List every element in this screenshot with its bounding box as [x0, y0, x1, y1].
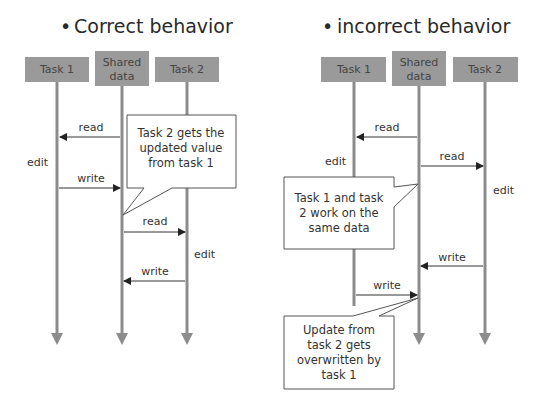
svg-text:2 work on the: 2 work on the: [299, 206, 378, 220]
svg-text:Shared: Shared: [103, 56, 142, 69]
message-read-to-task2: read: [421, 150, 483, 166]
participant-task-1: Task 1: [25, 57, 89, 82]
svg-text:Task 1 and task: Task 1 and task: [294, 191, 384, 205]
svg-text:Task 2 gets the: Task 2 gets the: [137, 126, 225, 140]
note-overwritten: Update from task 2 gets overwritten by t…: [284, 298, 418, 389]
note-updated-value: Task 2 gets the updated value from task …: [123, 115, 236, 215]
svg-text:Task 2: Task 2: [169, 63, 204, 76]
edit-label-task1: edit: [27, 156, 49, 169]
svg-text:read: read: [143, 215, 168, 228]
participant-task-2: Task 2: [155, 57, 219, 82]
svg-text:Update from: Update from: [303, 323, 375, 337]
svg-text:read: read: [79, 121, 104, 134]
svg-text:write: write: [141, 265, 169, 278]
participant-task-1: Task 1: [321, 57, 386, 82]
edit-label-task2: edit: [194, 248, 216, 261]
panel-incorrect-behavior: • incorrect behavior Task 1 Shared data …: [284, 15, 518, 389]
message-read-to-task2: read: [124, 215, 185, 232]
note-same-data: Task 1 and task 2 work on the same data: [284, 177, 418, 249]
svg-text:write: write: [438, 251, 466, 264]
panel-title: Correct behavior: [74, 15, 233, 37]
svg-text:task 1: task 1: [321, 368, 356, 382]
message-write-from-task2: write: [124, 265, 185, 281]
svg-text:overwritten by: overwritten by: [297, 353, 381, 367]
svg-text:write: write: [77, 172, 105, 185]
svg-text:Task 2: Task 2: [467, 63, 502, 76]
svg-text:same data: same data: [309, 221, 370, 235]
participant-task-2: Task 2: [453, 57, 518, 82]
message-write-from-task2: write: [421, 251, 483, 266]
svg-text:updated value: updated value: [140, 141, 223, 155]
panel-title: incorrect behavior: [337, 15, 510, 37]
edit-label-task2: edit: [493, 184, 515, 197]
svg-text:from task 1: from task 1: [148, 156, 214, 170]
edit-label-task1: edit: [325, 155, 347, 168]
panel-title-bullet: •: [60, 15, 71, 37]
message-read-to-task1: read: [60, 121, 120, 137]
message-write-from-task1: write: [59, 172, 120, 188]
diagram-canvas: • Correct behavior Task 1 Shared data Ta…: [0, 0, 538, 404]
participant-shared-data: Shared data: [392, 51, 446, 86]
svg-text:data: data: [407, 70, 432, 83]
participant-shared-data: Shared data: [95, 51, 149, 86]
svg-text:read: read: [375, 121, 400, 134]
svg-text:data: data: [110, 70, 135, 83]
message-write-from-task1: write: [356, 279, 417, 295]
panel-correct-behavior: • Correct behavior Task 1 Shared data Ta…: [25, 15, 236, 345]
svg-text:Task 1: Task 1: [336, 63, 371, 76]
svg-text:Task 1: Task 1: [39, 63, 74, 76]
message-read-to-task1: read: [357, 121, 417, 137]
svg-text:read: read: [440, 150, 465, 163]
svg-text:Shared: Shared: [400, 56, 439, 69]
svg-text:write: write: [373, 279, 401, 292]
panel-title-bullet: •: [322, 15, 333, 37]
svg-text:task 2 gets: task 2 gets: [307, 338, 371, 352]
